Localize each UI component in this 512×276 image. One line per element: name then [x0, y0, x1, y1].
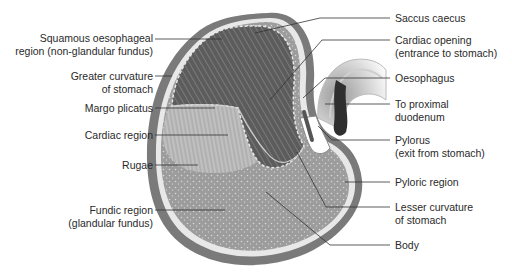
label-rugae: Rugae [122, 159, 153, 172]
label-squamous-oesophageal-region: Squamous oesophageal region (non-glandul… [15, 32, 153, 57]
label-lesser-curvature: Lesser curvature of stomach [395, 201, 473, 226]
label-margo-plicatus: Margo plicatus [85, 102, 153, 115]
duodenum-tube [318, 59, 386, 136]
label-to-proximal-duodenum: To proximal duodenum [395, 98, 449, 123]
label-oesophagus: Oesophagus [395, 72, 455, 85]
label-pyloric-region: Pyloric region [395, 176, 459, 189]
label-saccus-caecus: Saccus caecus [395, 12, 466, 25]
label-greater-curvature: Greater curvature of stomach [71, 70, 153, 95]
label-cardiac-opening: Cardiac opening (entrance to stomach) [395, 34, 497, 59]
label-cardiac-region: Cardiac region [85, 129, 153, 142]
label-body: Body [395, 239, 419, 252]
label-fundic-region: Fundic region (glandular fundus) [68, 204, 153, 229]
stomach-diagram: Squamous oesophageal region (non-glandul… [0, 0, 512, 276]
label-pylorus: Pylorus (exit from stomach) [395, 134, 485, 159]
